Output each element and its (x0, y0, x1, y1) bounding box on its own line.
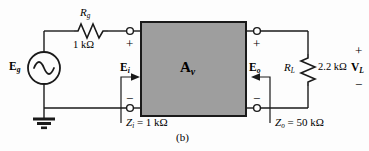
source-eg-label: Eg (9, 61, 20, 73)
resistor-rl-label: RL (284, 62, 295, 73)
output-voltage-eo-label: Eo (249, 62, 260, 74)
resistor-rg-value: 1 kΩ (73, 40, 94, 51)
terminal-input-positive (127, 28, 134, 35)
ground-bar-2 (37, 122, 51, 125)
input-impedance-label: Zi = 1 kΩ (126, 117, 168, 128)
figure-caption: (b) (176, 132, 189, 143)
ground-bar-1 (33, 118, 55, 121)
output-minus-sign: − (253, 92, 260, 105)
circuit-figure: Rg 1 kΩ Eg Av + − Ei Zi = 1 kΩ + − Eo Zo… (0, 0, 369, 151)
input-minus-sign: − (126, 92, 133, 105)
load-voltage-plus-sign: + (355, 44, 362, 57)
circuit-schematic-svg (0, 0, 369, 151)
input-voltage-ei-label: Ei (120, 62, 130, 74)
output-plus-sign: + (253, 37, 260, 50)
terminal-output-positive (254, 28, 261, 35)
load-voltage-vl-label: VL (351, 62, 364, 74)
output-impedance-label: Zo = 50 kΩ (275, 117, 324, 128)
resistor-rl-value: 2.2 kΩ (318, 62, 347, 73)
ei-arrow-head (131, 73, 140, 81)
amplifier-gain-label: Av (180, 60, 195, 75)
resistor-rl-symbol (301, 54, 315, 86)
resistor-rg-label: Rg (80, 7, 90, 18)
ground-bar-3 (41, 127, 47, 130)
input-plus-sign: + (126, 37, 133, 50)
load-voltage-minus-sign: − (355, 78, 362, 91)
resistor-rg-symbol (74, 24, 108, 38)
eo-arrow-stem (260, 77, 270, 123)
